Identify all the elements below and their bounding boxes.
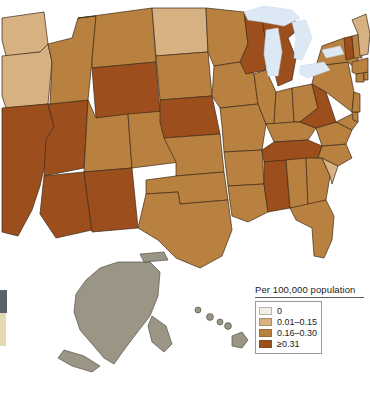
contiguous-states-group bbox=[2, 8, 370, 268]
state-arkansas[interactable] bbox=[224, 150, 264, 186]
alaska-panhandle[interactable] bbox=[148, 316, 172, 352]
state-rhode-island[interactable] bbox=[364, 72, 368, 80]
hawaii-maui[interactable] bbox=[225, 323, 232, 330]
state-south-dakota[interactable] bbox=[156, 52, 212, 100]
legend-swatch-zero bbox=[259, 307, 272, 315]
state-mississippi[interactable] bbox=[264, 160, 290, 212]
map-legend: Per 100,000 population 0 0.01–0.15 0.16–… bbox=[252, 284, 364, 354]
legend-label-low: 0.01–0.15 bbox=[277, 318, 317, 327]
state-minnesota[interactable] bbox=[206, 8, 248, 66]
map-figure: Per 100,000 population 0 0.01–0.15 0.16–… bbox=[0, 0, 370, 395]
state-alaska[interactable] bbox=[74, 262, 160, 364]
lake-huron bbox=[292, 20, 312, 60]
legend-entry-zero[interactable]: 0 bbox=[259, 306, 317, 316]
state-louisiana[interactable] bbox=[228, 184, 268, 222]
lake-michigan bbox=[264, 28, 282, 76]
legend-entry-mid[interactable]: 0.16–0.30 bbox=[259, 328, 317, 338]
legend-label-high: ≥0.31 bbox=[277, 340, 299, 349]
hawaii-big-island[interactable] bbox=[232, 332, 248, 348]
state-nebraska[interactable] bbox=[160, 96, 220, 138]
hawaii-kauai[interactable] bbox=[195, 307, 201, 313]
state-idaho[interactable] bbox=[48, 16, 96, 104]
legend-swatch-low bbox=[259, 318, 272, 326]
legend-swatch-mid bbox=[259, 329, 272, 337]
hawaii-oahu[interactable] bbox=[207, 314, 214, 321]
hawaii-molokai[interactable] bbox=[217, 319, 223, 325]
state-florida[interactable] bbox=[290, 200, 334, 258]
legend-entry-low[interactable]: 0.01–0.15 bbox=[259, 317, 317, 327]
state-indiana[interactable] bbox=[274, 88, 294, 124]
state-new-mexico[interactable] bbox=[84, 168, 138, 232]
alaska-inset bbox=[58, 252, 172, 372]
state-arizona[interactable] bbox=[40, 172, 92, 238]
legend-swatch-high bbox=[259, 340, 272, 348]
alaska-arctic-tip[interactable] bbox=[140, 252, 168, 262]
state-alabama[interactable] bbox=[286, 158, 308, 208]
state-missouri[interactable] bbox=[220, 104, 266, 152]
state-washington[interactable] bbox=[2, 12, 48, 56]
legend-entry-high[interactable]: ≥0.31 bbox=[259, 339, 317, 349]
state-kansas[interactable] bbox=[164, 134, 224, 176]
state-north-dakota[interactable] bbox=[152, 8, 208, 56]
state-wyoming[interactable] bbox=[92, 62, 160, 118]
legend-swatch-box: 0 0.01–0.15 0.16–0.30 ≥0.31 bbox=[255, 301, 322, 354]
legend-label-zero: 0 bbox=[277, 307, 282, 316]
state-nevada[interactable] bbox=[44, 100, 88, 176]
hawaii-inset bbox=[195, 307, 248, 348]
legend-title: Per 100,000 population bbox=[255, 284, 364, 298]
alaska-aleutians[interactable] bbox=[58, 350, 100, 372]
legend-label-mid: 0.16–0.30 bbox=[277, 329, 317, 338]
